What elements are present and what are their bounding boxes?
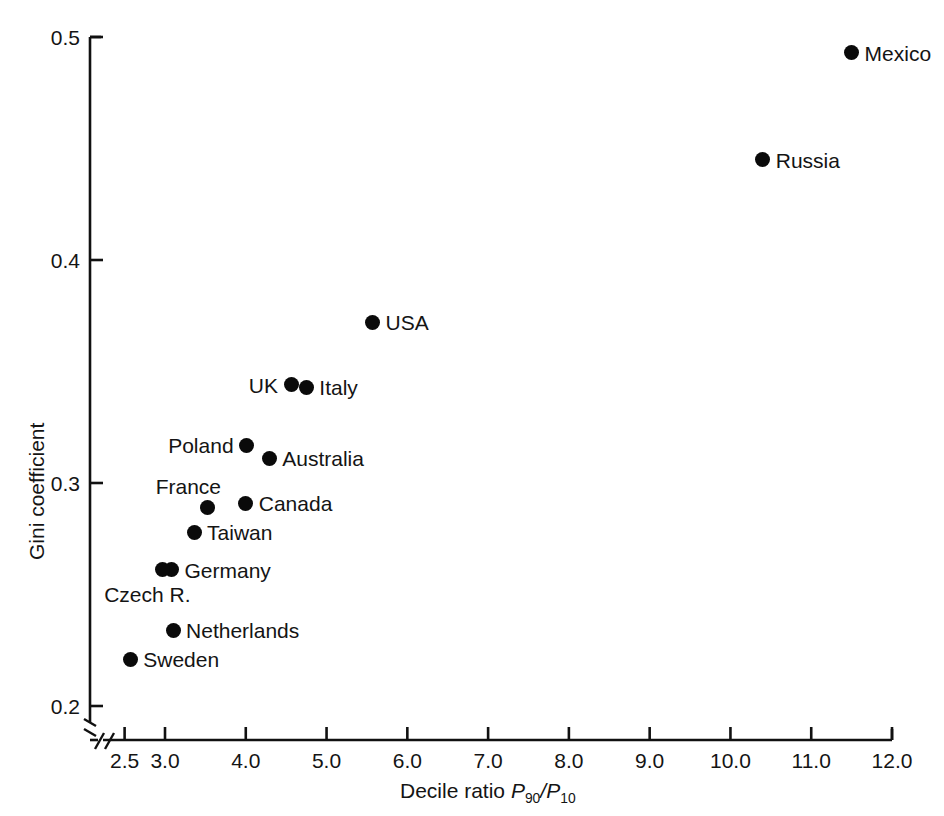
point-label: Australia [282,448,364,469]
x-tick-label: 4.0 [231,750,260,771]
point-label: Russia [776,149,840,170]
x-axis-title-prefix: Decile ratio [400,779,511,802]
x-axis-title-p90-subscript: 90 [525,790,540,806]
point-label: Canada [259,493,333,514]
point-label: Czech R. [104,583,190,604]
point-label: Germany [184,559,270,580]
point-label: UK [249,374,278,395]
marker-dot [166,623,181,638]
x-tick-label: 12.0 [872,750,913,771]
scatter-chart-figure: 0.20.30.40.5 2.53.04.05.06.07.08.09.010.… [0,0,944,816]
x-axis-title-p90-symbol: P [511,779,525,802]
y-tick-label: 0.4 [28,250,80,271]
x-tick-label: 9.0 [635,750,664,771]
x-tick-label: 10.0 [710,750,751,771]
point-label: Italy [319,377,358,398]
x-axis-title: Decile ratio P90/P10 [400,780,576,806]
point-label: Mexico [865,42,932,63]
x-tick-label: 11.0 [792,750,831,771]
y-axis-break-icon [84,719,96,736]
marker-dot [200,500,215,515]
x-axis-title-p10-subscript: 10 [560,790,575,806]
marker-dot [262,451,277,466]
y-tick-label: 0.5 [28,27,80,48]
marker-dot [299,380,314,395]
marker-dot [187,525,202,540]
y-axis-title: Gini coefficient [26,423,47,560]
axes-layer [0,0,944,816]
point-label: France [156,475,221,496]
plot-area: 0.20.30.40.5 2.53.04.05.06.07.08.09.010.… [0,0,944,816]
x-axis-break-icon [95,733,114,749]
point-label: Taiwan [207,522,272,543]
x-axis-title-p10-symbol: P [546,779,560,802]
x-tick-label: 5.0 [312,750,341,771]
marker-dot [365,315,380,330]
x-tick-label: 3.0 [150,750,179,771]
y-tick-label: 0.2 [28,696,80,717]
x-tick-label: 7.0 [474,750,503,771]
x-tick-marks [125,727,892,740]
x-tick-label: 6.0 [393,750,422,771]
y-tick-marks [90,37,103,706]
marker-dot [755,152,770,167]
point-label: Poland [168,435,233,456]
x-tick-label: 2.5 [110,750,139,771]
x-tick-label: 8.0 [554,750,583,771]
marker-dot [284,377,299,392]
marker-dot [238,496,253,511]
point-label: Netherlands [186,620,299,641]
marker-dot [239,438,254,453]
marker-dot [844,45,859,60]
point-label: Sweden [143,649,219,670]
point-label: USA [386,312,429,333]
marker-dot [123,652,138,667]
